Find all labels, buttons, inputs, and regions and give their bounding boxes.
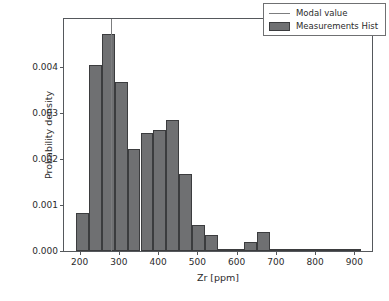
- histogram-figure: 0.0000.0010.0020.0030.004200300400500600…: [0, 0, 389, 301]
- y-tick-mark: [60, 251, 64, 252]
- histogram-bar: [76, 213, 89, 251]
- bar-swatch-icon: [269, 22, 290, 31]
- x-tick-label: 900: [346, 257, 363, 267]
- histogram-bar: [244, 242, 257, 251]
- x-tick-label: 600: [228, 257, 245, 267]
- histogram-bar: [153, 130, 166, 251]
- histogram-bar: [166, 120, 179, 251]
- histogram-bar: [115, 82, 128, 251]
- y-tick-mark: [60, 159, 64, 160]
- y-tick-mark: [60, 205, 64, 206]
- y-tick-label: 0.000: [32, 246, 58, 256]
- legend-item-measurements-hist: Measurements Hist: [269, 21, 378, 31]
- x-tick-mark: [354, 251, 355, 255]
- histogram-bar: [296, 249, 309, 251]
- x-tick-mark: [276, 251, 277, 255]
- plot-area: [64, 19, 372, 251]
- histogram-bar: [335, 249, 348, 251]
- x-tick-label: 300: [110, 257, 127, 267]
- x-tick-label: 700: [267, 257, 284, 267]
- histogram-bar: [218, 249, 231, 251]
- histogram-bar: [128, 149, 141, 251]
- histogram-bar: [179, 174, 192, 251]
- modal-value-line: [111, 19, 112, 251]
- histogram-bar: [257, 232, 270, 251]
- x-tick-label: 800: [307, 257, 324, 267]
- x-tick-mark: [119, 251, 120, 255]
- plot-frame: 0.0000.0010.0020.0030.004200300400500600…: [63, 18, 373, 252]
- y-tick-mark: [60, 67, 64, 68]
- x-tick-mark: [237, 251, 238, 255]
- y-axis-label: Probability density: [43, 91, 54, 179]
- x-axis-label: Zr [ppm]: [63, 272, 373, 283]
- histogram-bar: [322, 249, 335, 251]
- x-tick-mark: [158, 251, 159, 255]
- y-tick-label: 0.001: [32, 200, 58, 210]
- histogram-bar: [205, 235, 218, 251]
- x-tick-label: 400: [150, 257, 167, 267]
- histogram-bar: [283, 249, 296, 251]
- legend-label-modal-value: Modal value: [296, 8, 347, 18]
- x-tick-mark: [80, 251, 81, 255]
- line-swatch-icon: [269, 13, 290, 14]
- histogram-bar: [192, 225, 205, 251]
- legend-label-measurements-hist: Measurements Hist: [296, 21, 378, 31]
- x-tick-label: 500: [189, 257, 206, 267]
- histogram-bar: [102, 34, 115, 251]
- y-tick-label: 0.004: [32, 62, 58, 72]
- x-tick-mark: [315, 251, 316, 255]
- y-tick-mark: [60, 113, 64, 114]
- legend-item-modal-value: Modal value: [269, 8, 378, 18]
- x-tick-label: 200: [71, 257, 88, 267]
- x-tick-mark: [197, 251, 198, 255]
- chart-legend: Modal value Measurements Hist: [263, 3, 386, 36]
- histogram-bar: [141, 133, 154, 251]
- histogram-bar: [89, 65, 102, 251]
